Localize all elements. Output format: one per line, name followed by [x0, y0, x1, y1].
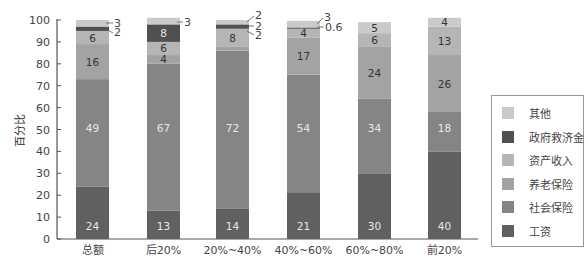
y-tick-label: 30	[36, 167, 50, 180]
y-axis-label: 百分比	[14, 114, 27, 147]
legend-item: 其他	[502, 106, 551, 120]
legend-swatch-icon	[502, 225, 514, 237]
segment-value-label: 17	[297, 50, 310, 62]
bar-segment	[76, 27, 109, 31]
segment-value-label: 16	[86, 56, 100, 68]
callout-label: 2	[255, 29, 262, 42]
segment-value-label: 26	[438, 78, 452, 90]
segment-value-label: 49	[86, 122, 99, 134]
x-tick-label: 20%~40%	[203, 244, 261, 257]
legend-swatch-icon	[502, 131, 514, 143]
bars	[76, 18, 461, 239]
legend-label: 政府救济金	[529, 129, 584, 145]
segment-value-label: 6	[160, 42, 167, 54]
segment-value-label: 54	[297, 122, 311, 134]
segment-value-label: 24	[368, 67, 382, 79]
bar-segment	[287, 193, 320, 239]
segment-value-label: 8	[160, 27, 167, 39]
segment-value-label: 4	[160, 53, 167, 65]
segment-value-label: 67	[157, 122, 170, 134]
segment-value-label: 6	[89, 32, 96, 44]
legend-item: 养老保险	[502, 177, 573, 191]
legend-item: 工资	[502, 224, 551, 238]
legend-item: 社会保险	[502, 200, 573, 214]
x-tick-label: 总额	[82, 243, 104, 257]
y-tick-label: 70	[36, 80, 50, 93]
segment-value-label: 13	[438, 35, 451, 47]
bar-segment	[358, 99, 391, 173]
legend-swatch-icon	[502, 154, 514, 166]
legend-label: 养老保险	[529, 176, 573, 192]
segment-value-label: 4	[300, 27, 307, 39]
y-tick-label: 90	[36, 36, 50, 49]
segment-value-label: 72	[226, 122, 239, 134]
bar-segment	[216, 46, 249, 50]
legend-label: 资产收入	[529, 152, 573, 168]
y-tick-label: 40	[36, 145, 50, 158]
legend-swatch-icon	[502, 107, 514, 119]
legend-swatch-icon	[502, 201, 514, 213]
x-tick-label: 前20%	[427, 243, 462, 257]
y-tick-label: 100	[29, 14, 50, 27]
y-tick-label: 60	[36, 102, 50, 115]
callout-label: 2	[114, 26, 121, 39]
y-tick-label: 10	[36, 211, 50, 224]
bar-segment	[76, 20, 109, 27]
legend-label: 社会保险	[529, 199, 573, 215]
callout-line	[247, 16, 254, 22]
segment-value-label: 4	[441, 16, 448, 28]
bar-segment	[147, 18, 180, 25]
bar-segment	[216, 24, 249, 28]
bar-segment	[216, 20, 249, 24]
segment-value-label: 40	[438, 220, 451, 232]
y-tick-label: 80	[36, 58, 50, 71]
x-tick-label: 60%~80%	[345, 244, 403, 257]
segment-value-label: 34	[368, 122, 382, 134]
segment-value-label: 24	[86, 220, 100, 232]
legend: 其他政府救济金资产收入养老保险社会保险工资	[491, 95, 584, 247]
segment-value-label: 13	[157, 220, 170, 232]
legend-swatch-icon	[502, 178, 514, 190]
segment-value-label: 8	[229, 32, 236, 44]
y-tick-label: 50	[36, 124, 50, 137]
legend-item: 政府救济金	[502, 130, 584, 144]
segment-value-label: 5	[371, 22, 378, 34]
legend-label: 其他	[529, 105, 551, 121]
x-tick-label: 40%~60%	[274, 244, 332, 257]
segment-value-label: 6	[371, 34, 378, 46]
callout-label: 3	[184, 16, 191, 29]
annotations: 2449166136746814728215417430342465401826…	[86, 9, 452, 232]
segment-value-label: 14	[226, 220, 240, 232]
bar-segment	[147, 64, 180, 211]
callout-label: 0.6	[325, 21, 343, 34]
segment-value-label: 18	[438, 122, 451, 134]
y-tick-label: 20	[36, 189, 50, 202]
legend-label: 工资	[529, 223, 551, 239]
legend-item: 资产收入	[502, 153, 573, 167]
segment-value-label: 30	[368, 220, 381, 232]
x-tick-label: 后20%	[146, 244, 181, 257]
segment-value-label: 21	[297, 220, 310, 232]
y-tick-label: 0	[43, 233, 50, 246]
